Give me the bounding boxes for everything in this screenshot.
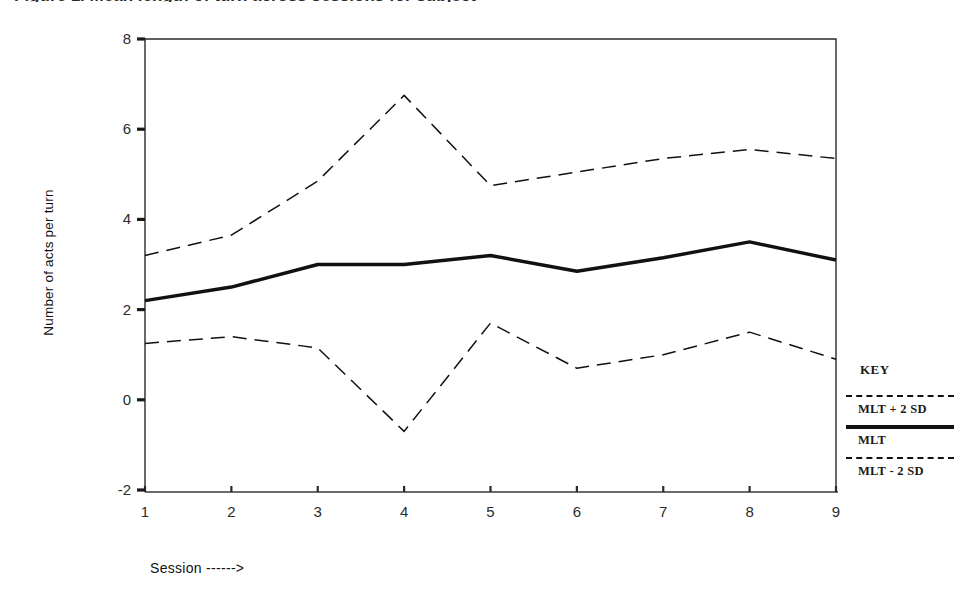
legend-label: MLT - 2 SD — [846, 462, 966, 482]
series-line-mlt — [145, 242, 836, 301]
legend: KEY MLT + 2 SDMLTMLT - 2 SD — [846, 362, 966, 484]
figure-container: Figure 1. Mean length of turn across ses… — [0, 0, 971, 606]
series-line-mlt-2-sd — [145, 323, 836, 431]
legend-swatch-dashed — [846, 453, 954, 462]
series-line-mlt-2-sd — [145, 95, 836, 255]
legend-title: KEY — [846, 362, 966, 378]
plot-frame — [145, 39, 836, 490]
legend-swatch-solid — [846, 422, 954, 431]
plot-canvas — [0, 0, 971, 606]
legend-entry: MLT + 2 SD — [846, 391, 966, 420]
legend-swatch-dashed — [846, 391, 954, 400]
legend-entries: MLT + 2 SDMLTMLT - 2 SD — [846, 391, 966, 482]
legend-entry: MLT - 2 SD — [846, 453, 966, 482]
legend-label: MLT — [846, 431, 966, 451]
legend-label: MLT + 2 SD — [846, 400, 966, 420]
legend-entry: MLT — [846, 422, 966, 451]
